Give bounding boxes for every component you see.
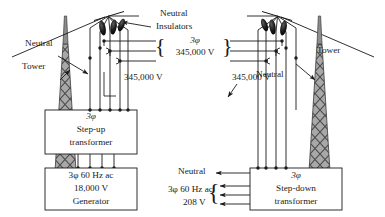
label-right-tower: Tower xyxy=(317,46,340,56)
label-center-phase: 3φ xyxy=(178,36,212,46)
label-left-voltage: 345,000 V xyxy=(124,73,163,83)
label-out-neutral: Neutral xyxy=(178,167,206,177)
generator-line3: Generator xyxy=(45,197,137,207)
step-down-line2: Step-down xyxy=(250,184,342,194)
step-up-line3: transformer xyxy=(45,138,137,148)
label-left-tower: Tower xyxy=(22,62,45,72)
label-out-line2: 208 V xyxy=(183,198,206,208)
label-center-voltage: 345,000 V xyxy=(166,48,224,58)
step-up-line2: Step-up xyxy=(45,125,137,135)
generator-line1: 3φ 60 Hz ac xyxy=(45,171,137,181)
step-down-line1: 3φ xyxy=(250,171,342,181)
diagram-canvas: Neutral Insulators { 3φ 345,000 V } Neut… xyxy=(0,0,385,217)
brace-center-right: } xyxy=(222,34,233,57)
label-insulators: Insulators xyxy=(156,22,192,32)
label-right-neutral: Neutral xyxy=(256,70,284,80)
label-neutral-top: Neutral xyxy=(160,9,188,19)
step-up-line1: 3φ xyxy=(45,112,137,122)
label-out-line1: 3φ 60 Hz ac xyxy=(168,185,213,195)
generator-line2: 18,000 V xyxy=(45,184,137,194)
brace-center-left: { xyxy=(155,34,166,57)
label-left-neutral: Neutral xyxy=(25,39,53,49)
step-down-line3: transformer xyxy=(250,197,342,207)
